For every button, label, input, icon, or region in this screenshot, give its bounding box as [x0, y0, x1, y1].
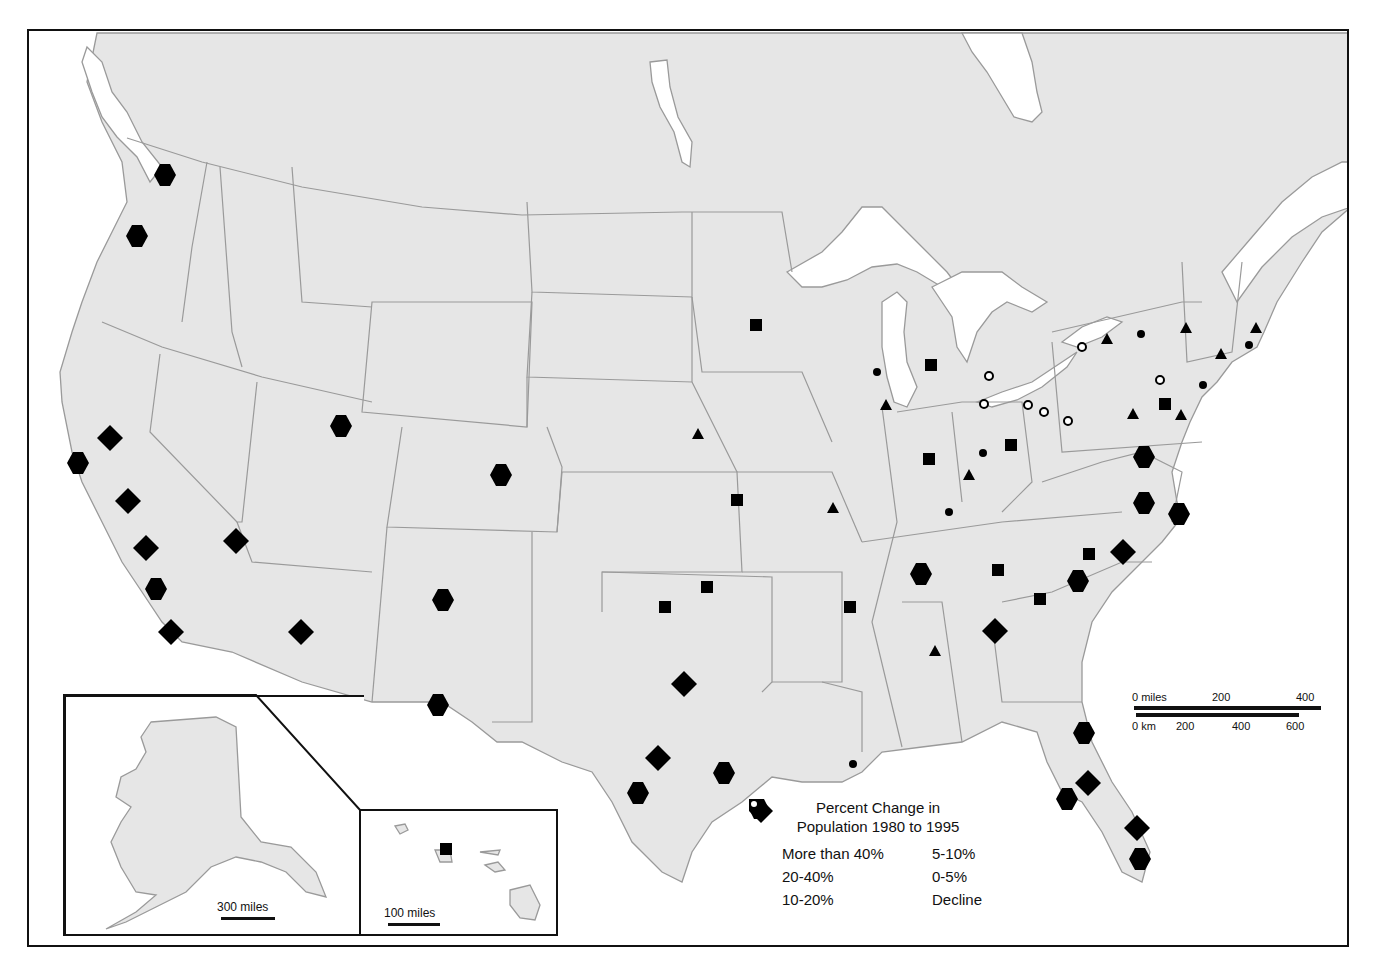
scale-km-600: 600: [1286, 720, 1304, 732]
scale-km-200: 200: [1176, 720, 1194, 732]
alaska-scale-bar: [221, 917, 275, 920]
scale-km-400: 400: [1232, 720, 1250, 732]
legend-item: Decline: [898, 891, 1018, 908]
legend: Percent Change in Population 1980 to 199…: [748, 798, 1018, 908]
map-frame: 300 miles 100 miles: [27, 29, 1349, 947]
scale-miles-0: 0 miles: [1132, 691, 1167, 703]
legend-title: Percent Change in Population 1980 to 199…: [738, 798, 1018, 836]
alaska-map: [66, 697, 366, 938]
legend-item: 0-5%: [898, 868, 1018, 885]
scale-km-bar: [1136, 713, 1299, 717]
alaska-scale-label: 300 miles: [217, 900, 268, 914]
hawaii-scale-bar: [388, 923, 440, 926]
legend-item: More than 40%: [748, 845, 898, 862]
scale-miles-bar: [1134, 706, 1321, 710]
legend-item: 5-10%: [898, 845, 1018, 862]
legend-items: More than 40% 5-10% 20-40% 0-5% 10-20% D…: [748, 845, 1018, 908]
legend-item: 10-20%: [748, 891, 898, 908]
hawaii-scale-label: 100 miles: [384, 906, 435, 920]
hawaii-inset: 100 miles: [360, 810, 555, 934]
scale-km-0: 0 km: [1132, 720, 1156, 732]
legend-item: 20-40%: [748, 868, 898, 885]
scale-miles-200: 200: [1212, 691, 1230, 703]
alaska-inset: 300 miles: [64, 695, 364, 936]
scale-miles-400: 400: [1296, 691, 1314, 703]
